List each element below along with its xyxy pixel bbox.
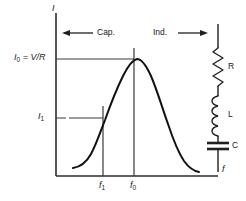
i0-value-label: I0 = V/R: [14, 53, 45, 63]
x-tick-label-f0: f0: [130, 181, 136, 191]
inductive-region-label: Ind.: [153, 28, 167, 37]
i0-equation: = V/R: [20, 52, 45, 62]
resonance-curve: [73, 59, 199, 172]
rlc-circuit-schematic: [207, 24, 229, 172]
resonance-curve-figure: I f Cap. Ind. I0 = V/R I1 f1 f0 R L C: [0, 0, 246, 201]
resistor-label: R: [228, 62, 234, 71]
y-axis-label: I: [52, 4, 55, 13]
resistor-icon: [213, 48, 223, 86]
f0-subscript: 0: [133, 184, 137, 191]
x-axis-label: f: [222, 165, 225, 174]
reference-lines-group: [56, 48, 134, 176]
axes-group: [56, 13, 218, 176]
inductive-arrow-icon: [178, 30, 208, 36]
inductor-icon: [212, 96, 218, 136]
inductor-label: L: [228, 110, 233, 119]
f1-subscript: 1: [102, 184, 106, 191]
capacitor-icon: [207, 143, 229, 149]
capacitive-arrow-icon: [62, 30, 93, 36]
i1-subscript: 1: [41, 115, 45, 122]
capacitive-region-label: Cap.: [97, 28, 115, 37]
x-tick-label-f1: f1: [99, 181, 105, 191]
i1-value-label: I1: [38, 112, 44, 122]
figure-canvas: [0, 0, 246, 201]
capacitor-label: C: [232, 141, 238, 150]
